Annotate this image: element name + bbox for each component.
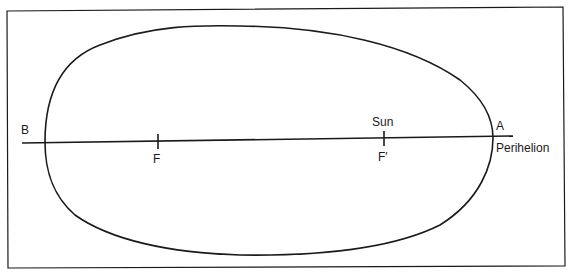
major-axis — [22, 136, 513, 143]
frame-border — [7, 7, 565, 268]
label-perihelion: Perihelion — [496, 141, 549, 155]
label-f-prime: F′ — [378, 150, 388, 164]
label-b: B — [21, 123, 29, 137]
label-f: F — [153, 152, 160, 166]
orbit-ellipse — [45, 26, 493, 255]
orbit-diagram: B F Sun F′ A Perihelion — [0, 0, 569, 272]
label-a: A — [496, 119, 504, 133]
label-sun: Sun — [372, 115, 393, 129]
